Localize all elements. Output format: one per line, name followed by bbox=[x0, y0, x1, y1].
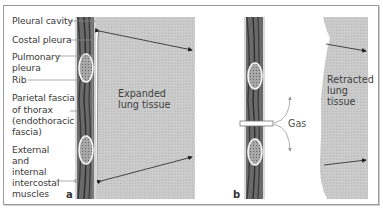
label-pulmonary-pleura-line1: Pulmonary bbox=[12, 52, 60, 63]
retracted-lung-label-line2: lung bbox=[327, 85, 348, 96]
retracted-lung-label-line3: tissue bbox=[327, 96, 355, 107]
label-parietal-fascia-line4: fascia) bbox=[12, 127, 42, 138]
expanded-lung-label-line2: lung tissue bbox=[118, 99, 170, 110]
label-pleural-cavity: Pleural cavity bbox=[12, 16, 73, 27]
label-parietal-fascia-line3: (endothoracic bbox=[12, 116, 74, 127]
label-intercostal-line3: internal bbox=[12, 167, 46, 178]
panel-b bbox=[240, 17, 368, 199]
panel-letter-a: a bbox=[66, 189, 73, 200]
label-parietal-fascia-line1: Parietal fascia bbox=[12, 93, 75, 104]
retracted-lung-label-line1: Retracted bbox=[327, 74, 374, 85]
label-pulmonary-pleura-line2: pleura bbox=[12, 63, 41, 74]
label-parietal-fascia-line2: of thorax bbox=[12, 105, 53, 116]
rib-upper-a bbox=[79, 54, 93, 82]
label-intercostal-line5: muscles bbox=[12, 189, 49, 200]
expanded-lung-label-line1: Expanded bbox=[118, 88, 166, 99]
panel-letter-b: b bbox=[233, 189, 240, 200]
label-intercostal-line4: intercostal bbox=[12, 178, 59, 189]
label-rib: Rib bbox=[12, 75, 26, 86]
chest-wall-b bbox=[245, 17, 264, 199]
label-intercostal-line2: and bbox=[12, 156, 29, 167]
rib-upper-b bbox=[248, 63, 262, 89]
rib-lower-b bbox=[248, 139, 262, 165]
gas-entry-tube bbox=[240, 121, 273, 126]
chest-wall-a bbox=[76, 17, 94, 199]
gas-label: Gas bbox=[288, 118, 306, 129]
label-costal-pleura: Costal pleura bbox=[12, 35, 72, 46]
label-intercostal-line1: External bbox=[12, 145, 49, 156]
rib-lower-a bbox=[79, 136, 93, 164]
